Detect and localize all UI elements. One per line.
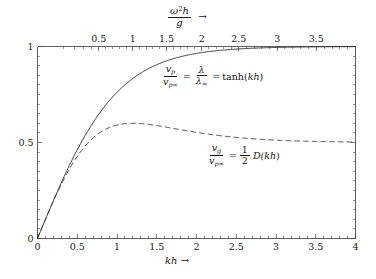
one-half-num: 1 <box>240 145 250 156</box>
lambda-num: λ <box>197 65 207 76</box>
left-tick-label: 1 <box>27 41 33 52</box>
tanh-argument: kh <box>248 71 260 82</box>
group-velocity-lhs-num: vg <box>210 143 224 156</box>
top-axis-fraction: ω2h g <box>168 6 191 28</box>
left-axis-tick-labels: 00.51 <box>18 41 33 244</box>
phase-velocity-lhs-num: vp <box>164 64 178 77</box>
D-label: D( <box>253 150 264 161</box>
top-tick-label: 2.5 <box>231 33 246 44</box>
top-tick-label: 0.5 <box>91 33 106 44</box>
one-half-den: 2 <box>240 156 250 166</box>
bottom-tick-label: 4 <box>352 241 358 252</box>
chart-canvas: 0.511.522.533.5 00.511.522.533.54 00.51 <box>0 0 376 279</box>
bottom-axis-tick-labels: 00.511.522.533.54 <box>34 241 358 252</box>
right-axis-ticks <box>351 47 356 239</box>
bottom-axis-symbol: kh <box>165 255 178 266</box>
group-equals-1: = <box>229 150 237 161</box>
left-tick-label: 0.5 <box>18 137 33 148</box>
phase-equals-1: = <box>183 71 191 82</box>
group-velocity-lhs-fraction: vg vp∞ <box>207 143 226 168</box>
lambda-den: λ∞ <box>194 76 209 88</box>
group-velocity-lhs-den: vp∞ <box>207 156 226 168</box>
top-axis-arrow-icon: → <box>195 11 206 22</box>
bottom-axis-ticks <box>38 234 356 239</box>
top-tick-label: 1.5 <box>159 33 174 44</box>
top-tick-label: 3.5 <box>309 33 324 44</box>
bottom-tick-label: 2.5 <box>229 241 244 252</box>
vpinf-sub: p∞ <box>168 81 178 89</box>
wavelength-fraction: λ λ∞ <box>194 65 209 88</box>
top-tick-label: 1 <box>130 33 136 44</box>
chart-figure: ω2h g → kh→ vp vp∞ = λ λ∞ = tanh(kh) vg … <box>0 0 376 279</box>
phase-velocity-lhs-fraction: vp vp∞ <box>161 64 180 89</box>
bottom-tick-label: 2 <box>193 241 199 252</box>
bottom-axis-arrow-icon: → <box>178 255 189 266</box>
top-axis-numerator: ω2h <box>168 6 191 18</box>
tanh-label: tanh( <box>222 71 247 82</box>
lambda-inf-sub: ∞ <box>202 80 207 88</box>
bottom-tick-label: 3 <box>273 241 279 252</box>
D-close-paren: ) <box>276 150 280 161</box>
left-axis-ticks <box>38 47 43 239</box>
omega-symbol: ω <box>170 5 178 16</box>
phase-velocity-equation: vp vp∞ = λ λ∞ = tanh(kh) <box>160 64 263 89</box>
one-half-fraction: 1 2 <box>240 145 250 166</box>
bottom-tick-label: 1.5 <box>149 241 164 252</box>
vg-sub: g <box>217 147 221 155</box>
top-tick-label: 3 <box>274 33 280 44</box>
top-axis-label: ω2h g → <box>167 6 207 28</box>
vpinf2-sub: p∞ <box>214 160 224 168</box>
group-velocity-curve <box>38 123 356 238</box>
bottom-tick-label: 3.5 <box>308 241 323 252</box>
top-axis-tick-labels: 0.511.522.533.5 <box>91 33 324 44</box>
vp-sub: p <box>171 68 175 76</box>
top-axis-denominator: g <box>174 18 184 29</box>
bottom-tick-label: 0.5 <box>70 241 85 252</box>
group-velocity-equation: vg vp∞ = 1 2 D(kh) <box>206 143 280 168</box>
phase-velocity-lhs-den: vp∞ <box>161 77 180 89</box>
tanh-expression: tanh(kh) <box>222 71 263 82</box>
left-tick-label: 0 <box>27 233 33 244</box>
h-symbol: h <box>182 5 188 16</box>
bottom-tick-label: 0 <box>34 241 40 252</box>
tanh-close-paren: ) <box>260 71 264 82</box>
top-tick-label: 2 <box>199 33 205 44</box>
bottom-axis-label: kh→ <box>165 255 189 266</box>
dispersion-expression: D(kh) <box>253 150 280 161</box>
phase-equals-2: = <box>212 71 220 82</box>
D-argument: kh <box>264 150 276 161</box>
bottom-tick-label: 1 <box>114 241 120 252</box>
